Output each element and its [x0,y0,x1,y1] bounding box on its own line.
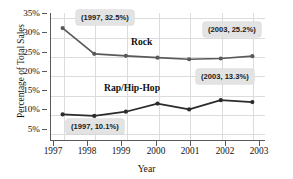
annotation-rap-1997: (1997, 10.1%) [66,119,124,134]
data-point [187,57,191,61]
y-tick-label: 30% [0,27,40,37]
y-tick-mark [42,52,47,53]
data-point [124,54,128,58]
annotation-rock-1997: (1997, 32.5%) [76,10,134,25]
data-point [250,100,254,104]
y-tick-label: 20% [0,66,40,76]
data-point [219,56,223,60]
y-tick-mark [42,13,47,14]
y-tick-label: 35% [0,8,40,18]
y-tick-mark [42,129,47,130]
data-point [219,98,223,102]
series-label-rap: Rap/Hip-Hop [104,82,160,93]
x-tick-label: 2003 [237,146,281,156]
y-tick-mark [42,32,47,33]
annotation-rock-2003: (2003, 25.2%) [203,22,261,37]
line-chart: Percentage of Total Sales Year 35% 30% 2… [0,0,293,179]
data-point [250,54,254,58]
data-point [61,26,65,30]
data-point [92,114,96,118]
data-point [61,112,65,116]
data-point [187,107,191,111]
y-tick-mark [42,90,47,91]
annotation-rap-2003: (2003, 13.3%) [196,69,254,84]
data-point [155,102,159,106]
y-tick-mark [42,109,47,110]
data-point [155,56,159,60]
y-tick-label: 5% [0,124,40,134]
data-point [124,110,128,114]
y-tick-label: 25% [0,47,40,57]
x-axis-title: Year [0,163,293,174]
y-tick-label: 15% [0,85,40,95]
y-tick-mark [42,71,47,72]
y-tick-label: 10% [0,104,40,114]
data-point [92,52,96,56]
series-label-rock: Rock [131,36,152,47]
